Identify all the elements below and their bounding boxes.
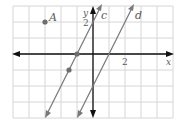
point-a <box>42 19 47 24</box>
point-c-2 <box>66 67 71 72</box>
x-axis-label: x <box>166 57 171 67</box>
y-tick-label-2: 2 <box>83 18 89 28</box>
line-c-label: c <box>101 9 107 22</box>
y-axis-down-arrow-icon <box>90 110 96 118</box>
y-axis-up-arrow-icon <box>90 6 96 14</box>
line-d-label: d <box>135 9 142 22</box>
y-axis-label: y <box>82 8 89 18</box>
point-a-label: A <box>48 11 57 24</box>
coordinate-graph: A c d y x 2 2 <box>0 0 182 125</box>
line-d-arrow-icon <box>128 4 134 11</box>
x-tick-label-2: 2 <box>122 57 128 67</box>
point-c-1 <box>74 51 79 56</box>
